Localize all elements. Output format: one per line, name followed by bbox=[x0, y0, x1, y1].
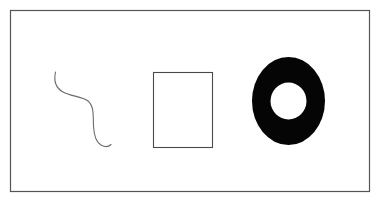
figure-canvas bbox=[0, 0, 380, 206]
shapes-svg bbox=[0, 0, 380, 206]
solid-ring bbox=[252, 57, 325, 145]
ring-inner-hole bbox=[271, 83, 307, 120]
